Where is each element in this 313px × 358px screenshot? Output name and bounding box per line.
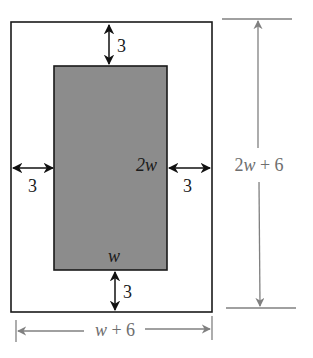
bottom-margin-label: 3: [123, 282, 132, 302]
inner-height-label: 2w: [136, 155, 157, 175]
diagram-canvas: 3 3 3 2w w 3 2w + 6 w + 6: [0, 0, 313, 358]
outer-height-label: 2w + 6: [234, 155, 283, 175]
height-dimension-arrow-lower: [259, 182, 260, 306]
top-margin-label: 3: [117, 36, 126, 56]
left-margin-label: 3: [28, 176, 37, 196]
outer-width-label: w + 6: [95, 320, 135, 340]
right-margin-label: 3: [183, 176, 192, 196]
inner-width-label: w: [108, 246, 120, 266]
